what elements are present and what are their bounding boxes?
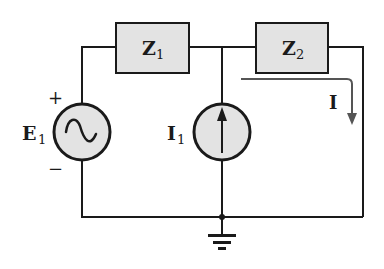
- wire-top-right: [328, 47, 363, 217]
- i1-label: I: [167, 122, 176, 144]
- z1-subscript: 1: [156, 47, 164, 62]
- node-dot: [219, 214, 225, 220]
- current-source-i1: I 1: [167, 104, 250, 160]
- impedance-z2: Z 2: [256, 23, 328, 73]
- current-arrow-i: I: [241, 79, 357, 125]
- circuit-diagram: Z 1 Z 2 + − E 1 I 1 I: [0, 0, 384, 269]
- e1-plus: +: [48, 87, 63, 108]
- i1-subscript: 1: [177, 132, 185, 147]
- z2-label: Z: [282, 37, 296, 59]
- impedance-z1: Z 1: [116, 23, 189, 73]
- current-label: I: [329, 92, 337, 113]
- z1-label: Z: [142, 37, 156, 59]
- wire-top-left: [82, 47, 116, 104]
- voltage-source-e1: + − E 1: [22, 87, 110, 179]
- ground-icon: [208, 234, 236, 250]
- down-arrow-icon: [347, 113, 357, 125]
- e1-minus: −: [48, 158, 63, 179]
- e1-label: E: [22, 122, 36, 144]
- e1-subscript: 1: [38, 132, 46, 147]
- z2-subscript: 2: [296, 47, 304, 62]
